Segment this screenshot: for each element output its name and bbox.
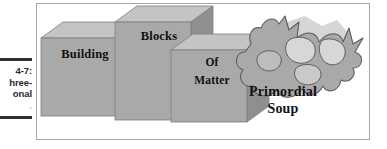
soup-light-blob-4 [295,64,322,84]
soup-light-blob-2 [319,39,345,65]
block-label-of: Of [177,56,247,68]
soup-label-soup: Soup [223,101,343,117]
figure-caption: 4-7: hree- onal . [0,58,32,119]
caption-line-4: . [0,100,32,112]
caption-line-2: hree- [0,77,32,89]
block-label-blocks: Blocks [121,29,197,44]
caption-rule-top [0,58,32,61]
caption-rule-bottom [0,116,32,119]
soup-light-blob-1 [286,37,316,63]
figure-page: 4-7: hree- onal . [0,0,387,149]
illustration-artwork [37,4,369,139]
figure-frame: Building Blocks Of Matter Primordial Sou… [36,3,370,140]
soup-label-primordial: Primordial [223,84,343,100]
caption-line-1: 4-7: [0,65,32,77]
block-label-building: Building [47,47,123,62]
soup-light-blob-3 [257,51,281,71]
caption-line-3: onal [0,88,32,100]
